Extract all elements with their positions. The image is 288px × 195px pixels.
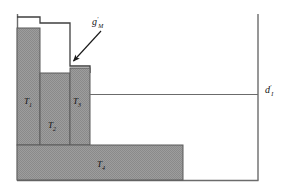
- axis-label-di: d′I: [265, 84, 274, 97]
- bars-group: [17, 28, 183, 180]
- bar-t1: [17, 28, 40, 145]
- callout-label-gm: g′M: [92, 16, 104, 29]
- callout-arrow-gm: [74, 31, 102, 61]
- bar-t2: [40, 73, 70, 145]
- schematic-diagram: T1 T2 T3 T4 g′M d′I: [0, 0, 288, 195]
- figure-container: T1 T2 T3 T4 g′M d′I: [0, 0, 288, 195]
